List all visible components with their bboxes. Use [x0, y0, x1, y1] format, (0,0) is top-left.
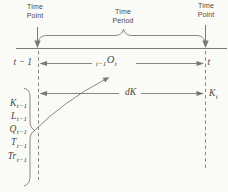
figure-lines: [0, 0, 228, 192]
kt-label-main: K: [209, 88, 215, 98]
input-tr-main: Tr: [8, 151, 16, 161]
kt-label-sub: t: [216, 93, 218, 101]
period-brace: [38, 29, 205, 44]
input-row-k: Kt−1: [2, 98, 27, 109]
down-arrow-right-head-icon: [202, 41, 208, 49]
time-point-right-line1: Time: [190, 2, 222, 11]
input-q-main: Q: [9, 124, 16, 134]
time-point-left-line2: Point: [19, 12, 51, 21]
time-point-label-right: Time Point: [190, 2, 222, 19]
production-curve: [34, 80, 104, 131]
time-point-label-left: Time Point: [19, 3, 51, 20]
input-tr-sub: t−1: [17, 156, 27, 164]
time-period-line1: Time: [102, 8, 144, 17]
input-q-sub: t−1: [17, 128, 27, 136]
interval-label-left: t − 1: [5, 57, 32, 67]
input-l-sub: t−1: [17, 115, 27, 123]
dk-arrowhead-left-icon: [40, 91, 48, 96]
output-label: t−1Ot: [96, 55, 117, 66]
time-period-label: Time Period: [102, 8, 144, 25]
down-arrow-left-head-icon: [34, 41, 40, 49]
input-k-sub: t−1: [17, 102, 27, 110]
input-t-sub: t−1: [17, 142, 27, 150]
input-t-main: T: [11, 137, 16, 147]
time-point-left-line1: Time: [19, 3, 51, 12]
input-l-main: L: [11, 111, 16, 121]
input-row-tr: Trt−1: [2, 151, 27, 162]
interval-arrowhead-left-icon: [40, 61, 48, 66]
interval-arrowhead-right-icon: [197, 61, 205, 66]
dk-arrowhead-right-icon: [197, 91, 205, 96]
input-row-t: Tt−1: [2, 137, 27, 148]
kt-label: Kt: [209, 88, 218, 99]
dk-label: dK: [121, 87, 140, 97]
time-period-line2: Period: [102, 17, 144, 26]
output-label-presub: t−1: [96, 60, 106, 68]
figure: Time Point Time Period Time Point t − 1 …: [0, 0, 228, 192]
input-row-l: Lt−1: [2, 111, 27, 122]
interval-label-right: t: [208, 57, 211, 67]
output-label-main: O: [107, 54, 115, 65]
input-row-q: Qt−1: [2, 124, 27, 135]
input-k-main: K: [10, 98, 16, 108]
time-point-right-line2: Point: [190, 11, 222, 20]
output-label-sub: t: [115, 60, 117, 68]
